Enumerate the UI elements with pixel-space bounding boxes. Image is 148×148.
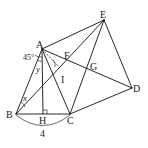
label-A: A — [36, 39, 44, 50]
point-B — [15, 113, 17, 115]
right-angle-marker-H — [43, 110, 47, 114]
label-F: F — [64, 50, 70, 61]
label-angle-x: x — [22, 93, 27, 103]
label-G: G — [90, 61, 97, 72]
angle-arc-AI — [53, 60, 55, 67]
label-angle-45: 45° — [23, 53, 34, 62]
label-angle-y: y — [35, 64, 40, 74]
segment-CE — [70, 20, 104, 114]
geometry-diagram: A E F G I D B H C 45° x y 4 — [0, 0, 148, 148]
label-H: H — [39, 115, 46, 126]
label-C: C — [67, 115, 74, 126]
label-length-BC: 4 — [40, 128, 45, 139]
label-E: E — [100, 9, 106, 20]
angle-arc-y — [38, 60, 42, 61]
segment-CD — [70, 88, 132, 114]
angle-arc-45 — [35, 55, 42, 57]
label-B: B — [6, 109, 13, 120]
label-D: D — [133, 83, 140, 94]
segment-AI-dashed — [42, 49, 60, 68]
segment-AH-altitude — [42, 49, 43, 114]
label-I: I — [61, 74, 64, 85]
